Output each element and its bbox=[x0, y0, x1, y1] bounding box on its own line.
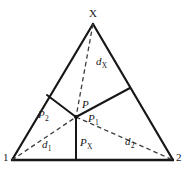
distance-label-d2-sub: 2 bbox=[131, 141, 135, 150]
distance-label-dx-base: d bbox=[96, 55, 102, 67]
point-label-p-base: P bbox=[82, 98, 89, 110]
distance-label-dx-sub: X bbox=[102, 61, 107, 70]
point-label-p: P bbox=[82, 99, 89, 110]
corner-label-1: 1 bbox=[3, 152, 9, 163]
point-label-p2-base: P bbox=[38, 108, 45, 120]
point-label-p2: P2 bbox=[38, 109, 48, 120]
distance-label-dx: dX bbox=[96, 56, 107, 67]
point-label-px: PX bbox=[80, 137, 92, 148]
point-label-p1: P1 bbox=[88, 113, 98, 124]
point-label-px-base: P bbox=[80, 136, 87, 148]
diagram-canvas bbox=[0, 0, 186, 172]
interior-point-marker bbox=[74, 115, 78, 119]
distance-label-d2-base: d bbox=[125, 135, 131, 147]
segment-p-to-left-edge bbox=[47, 95, 76, 117]
distance-label-d1-sub: 1 bbox=[48, 144, 52, 153]
distance-label-d1: d1 bbox=[42, 139, 51, 150]
apex-label-x: X bbox=[89, 8, 97, 19]
point-label-p1-sub: 1 bbox=[95, 118, 99, 127]
point-label-px-sub: X bbox=[87, 142, 92, 151]
distance-label-d1-base: d bbox=[42, 138, 48, 150]
corner-label-2: 2 bbox=[176, 152, 182, 163]
point-label-p1-base: P bbox=[88, 112, 95, 124]
geometry-diagram: X 1 2 dX d1 d2 P P1 P2 PX bbox=[0, 0, 186, 172]
point-label-p2-sub: 2 bbox=[45, 114, 49, 123]
distance-label-d2: d2 bbox=[125, 136, 134, 147]
